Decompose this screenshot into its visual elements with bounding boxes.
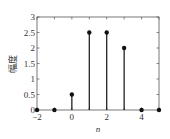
y-tick-label: 1.5 [24, 59, 36, 69]
stem-marker [105, 30, 109, 34]
y-tick-label: 2 [31, 43, 36, 53]
x-tick-label: 2 [104, 112, 109, 122]
y-tick-label: 0.5 [24, 90, 36, 100]
stem-marker [157, 108, 161, 112]
stem-chart: 00.511.522.53 −2024 n 幅度 [0, 0, 170, 139]
stem-marker [70, 92, 74, 96]
x-axis-label: n [96, 124, 101, 134]
stem-marker [122, 46, 126, 50]
y-tick-label: 1 [31, 74, 36, 84]
x-tick-label: 4 [139, 112, 144, 122]
x-tick-label: 0 [70, 112, 75, 122]
y-axis-label: 幅度 [7, 55, 18, 73]
stem-marker [87, 30, 91, 34]
y-tick-label: 2.5 [24, 28, 36, 38]
stem-marker [139, 108, 143, 112]
stem-marker [35, 108, 39, 112]
x-tick-label: −2 [32, 112, 42, 122]
plot-area [37, 17, 159, 110]
stem-marker [52, 108, 56, 112]
y-tick-label: 3 [31, 12, 36, 22]
